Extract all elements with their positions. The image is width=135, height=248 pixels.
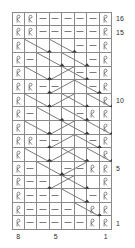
chart-cell (100, 189, 113, 203)
knit-stitch-icon (13, 67, 24, 80)
chart-cell (100, 203, 113, 217)
purl-stitch-icon (87, 26, 99, 39)
knit-stitch-icon (87, 107, 99, 120)
chart-cell (12, 107, 25, 121)
column-number-label: 5 (50, 233, 63, 240)
purl-stitch-icon (62, 26, 74, 39)
knit-stitch-icon (13, 162, 24, 175)
chart-cell (87, 162, 100, 176)
purl-stitch-icon (87, 39, 99, 52)
knit-stitch-icon (100, 162, 112, 175)
purl-stitch-icon (87, 13, 99, 25)
purl-stitch-icon (37, 216, 49, 229)
chart-cell (37, 67, 50, 81)
chart-cell (25, 203, 38, 217)
knit-stitch-icon (87, 162, 99, 175)
knit-stitch-icon (100, 121, 112, 134)
chart-cell (75, 189, 88, 203)
knit-stitch-icon (13, 176, 24, 189)
knit-stitch-icon (100, 189, 112, 202)
chart-cell (100, 26, 113, 40)
purl-stitch-icon (25, 216, 37, 229)
chart-cell (12, 26, 25, 40)
chart-cell (50, 121, 63, 135)
chart-cell (100, 12, 113, 26)
chart-cell (50, 80, 63, 94)
chart-cell (25, 80, 38, 94)
chart-cell (12, 148, 25, 162)
knit-stitch-icon (13, 148, 24, 161)
chart-cell (50, 203, 63, 217)
chart-cell (87, 39, 100, 53)
chart-cell (62, 203, 75, 217)
chart-cell (100, 135, 113, 149)
row-number-label: 16 (116, 15, 124, 22)
chart-cell (75, 135, 88, 149)
knit-stitch-icon (100, 148, 112, 161)
chart-cell (75, 94, 88, 108)
purl-stitch-icon (25, 189, 37, 202)
chart-cell (62, 121, 75, 135)
purl-stitch-icon (50, 135, 62, 148)
knit-stitch-icon (100, 135, 112, 148)
chart-cell (37, 94, 50, 108)
chart-cell (75, 203, 88, 217)
chart-cell (62, 94, 75, 108)
chart-cell (87, 80, 100, 94)
chart-cell (50, 39, 63, 53)
chart-cell (87, 189, 100, 203)
chart-cell (25, 189, 38, 203)
chart-cell (100, 121, 113, 135)
knit-stitch-icon (100, 39, 112, 52)
chart-cell (37, 107, 50, 121)
chart-cell (87, 53, 100, 67)
chart-cell (62, 12, 75, 26)
chart-cell (75, 148, 88, 162)
chart-cell (37, 216, 50, 230)
knit-stitch-icon (13, 26, 24, 39)
knit-stitch-icon (13, 53, 24, 66)
knit-stitch-icon (25, 135, 37, 148)
purl-stitch-icon (62, 13, 74, 25)
knit-stitch-icon (13, 80, 24, 93)
row-number-label: 15 (116, 29, 124, 36)
purl-stitch-icon (37, 13, 49, 25)
chart-cell (62, 26, 75, 40)
chart-cell (50, 26, 63, 40)
purl-stitch-icon (75, 39, 87, 52)
chart-cell (100, 162, 113, 176)
chart-cell (87, 176, 100, 190)
chart-cell (100, 148, 113, 162)
chart-cell (37, 203, 50, 217)
chart-cell (50, 189, 63, 203)
purl-stitch-icon (50, 80, 62, 93)
chart-cell (75, 107, 88, 121)
chart-cell (12, 189, 25, 203)
chart-cell (87, 148, 100, 162)
chart-cell (62, 189, 75, 203)
chart-cell (37, 80, 50, 94)
knit-stitch-icon (25, 80, 37, 93)
chart-cell (50, 53, 63, 67)
chart-cell (87, 12, 100, 26)
chart-cell (100, 53, 113, 67)
chart-cell (62, 216, 75, 230)
chart-cell (25, 148, 38, 162)
row-number-label: 5 (116, 165, 120, 172)
chart-cell (25, 94, 38, 108)
chart-cell (12, 135, 25, 149)
chart-cell (62, 176, 75, 190)
column-number-label: 8 (12, 233, 25, 240)
row-number-label: 10 (116, 97, 124, 104)
chart-cell (75, 216, 88, 230)
chart-cell (87, 135, 100, 149)
chart-cell (87, 107, 100, 121)
chart-cell (75, 80, 88, 94)
purl-stitch-icon (37, 80, 49, 93)
knit-stitch-icon (87, 203, 99, 216)
chart-cell (62, 107, 75, 121)
chart-cell (100, 94, 113, 108)
purl-stitch-icon (25, 53, 37, 66)
purl-stitch-icon (37, 189, 49, 202)
chart-cell (50, 176, 63, 190)
